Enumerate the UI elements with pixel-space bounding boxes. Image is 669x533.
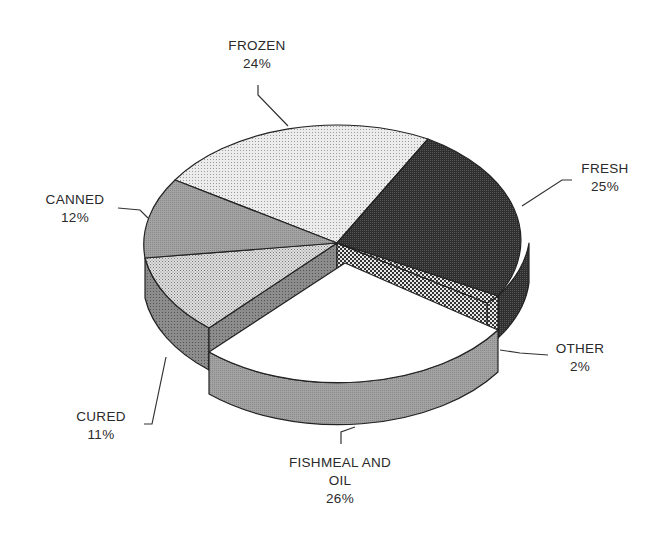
label-frozen-name: FROZEN (212, 37, 302, 55)
label-cured: CURED 11% (61, 408, 141, 444)
label-fresh: FRESH 25% (565, 160, 645, 196)
label-frozen: FROZEN 24% (212, 37, 302, 73)
label-other: OTHER 2% (540, 340, 620, 376)
label-cured-pct: 11% (61, 426, 141, 444)
label-fishmeal-pct: 26% (270, 490, 410, 508)
label-canned-name: CANNED (30, 191, 120, 209)
label-fresh-name: FRESH (565, 160, 645, 178)
label-other-name: OTHER (540, 340, 620, 358)
label-fresh-pct: 25% (565, 178, 645, 196)
leader-frozen (258, 85, 288, 126)
label-fishmeal-name-line1: FISHMEAL AND (270, 454, 410, 472)
label-cured-name: CURED (61, 408, 141, 426)
label-canned-pct: 12% (30, 209, 120, 227)
leader-cured (144, 357, 166, 424)
label-fishmeal-name-line2: OIL (270, 472, 410, 490)
label-frozen-pct: 24% (212, 55, 302, 73)
label-fishmeal: FISHMEAL AND OIL 26% (270, 454, 410, 508)
label-canned: CANNED 12% (30, 191, 120, 227)
leader-canned (118, 208, 148, 218)
leader-fishmeal (341, 427, 355, 444)
label-other-pct: 2% (540, 358, 620, 376)
